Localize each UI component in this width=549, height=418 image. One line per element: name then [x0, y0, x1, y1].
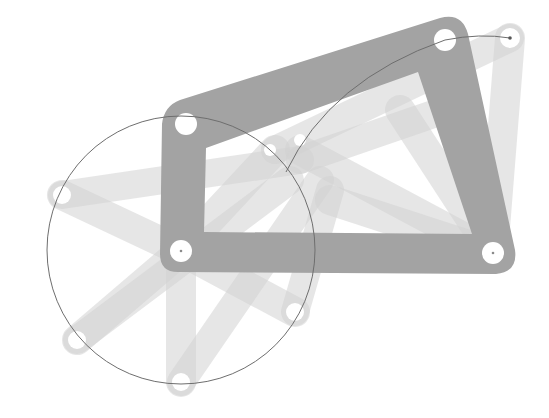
trace-endpoint	[508, 36, 512, 40]
linkage-diagram	[0, 0, 549, 418]
